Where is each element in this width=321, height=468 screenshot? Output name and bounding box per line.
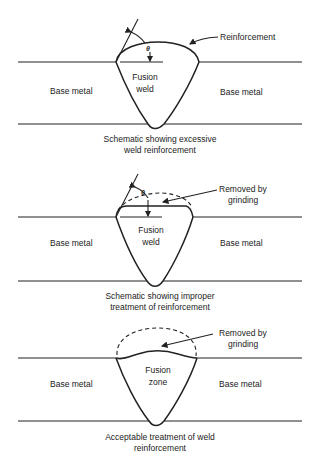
base-metal-right-label: Base metal [220, 87, 263, 97]
caption-line-2: treatment of reinforcement [110, 302, 210, 312]
panel-excessive-reinforcement: θ Reinforcement Fusion weld Base metal B… [18, 19, 302, 155]
weld-label-1: Fusion [138, 225, 164, 235]
theta-symbol: θ [141, 189, 145, 196]
weld-label-1: Fusion [132, 72, 158, 82]
base-metal-left-label: Base metal [50, 379, 93, 389]
removed-label-1: Removed by [219, 328, 267, 338]
reinforcement-callout-arrow [190, 37, 218, 44]
theta-symbol: θ [146, 45, 150, 52]
weld-label-1: Fusion [145, 365, 171, 375]
removed-label-1: Removed by [219, 184, 267, 194]
caption-line-2: reinforcement [134, 443, 187, 453]
base-metal-right-label: Base metal [219, 379, 262, 389]
tangent-line [116, 174, 138, 217]
reinforcement-label: Reinforcement [220, 32, 276, 42]
removed-label-2: grinding [228, 195, 259, 205]
ground-flat-top [116, 206, 193, 217]
weld-label-2: weld [135, 84, 154, 94]
flush-ground-surface [116, 351, 197, 359]
base-metal-left-label: Base metal [50, 86, 93, 96]
removed-crown-dashed [118, 193, 192, 210]
angle-arc [131, 32, 145, 43]
weld-label-2: weld [141, 237, 160, 247]
removed-label-2: grinding [228, 339, 259, 349]
caption-line-1: Schematic showing excessive [104, 134, 217, 144]
tangent-line [116, 19, 138, 62]
weld-reinforcement-diagram: θ Reinforcement Fusion weld Base metal B… [0, 0, 321, 468]
caption-line-2: weld reinforcement [123, 145, 196, 155]
removed-callout-arrow [163, 190, 217, 202]
caption-line-1: Schematic showing improper [105, 291, 214, 301]
panel-acceptable-treatment: Removed by grinding Fusion zone Base met… [18, 328, 302, 453]
panel-improper-treatment: θ Removed by grinding Fusion weld Base m… [18, 174, 302, 312]
base-metal-left-label: Base metal [50, 238, 93, 248]
removed-crown-dashed [117, 328, 196, 356]
caption-line-1: Acceptable treatment of weld [105, 432, 215, 442]
weld-label-2: zone [149, 377, 168, 387]
base-metal-right-label: Base metal [220, 238, 263, 248]
reinforcement-crown [116, 42, 199, 62]
